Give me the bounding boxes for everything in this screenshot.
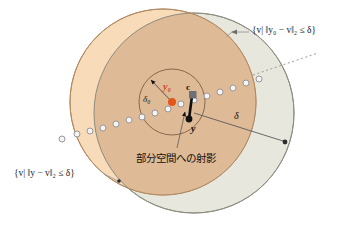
label-set-y: {v| ‖y − v‖₂ ≤ δ} — [14, 168, 75, 178]
label-projection-caption: 部分空間への射影 — [136, 150, 216, 165]
figure-canvas: {v| ‖y₀ − v‖₂ ≤ δ} {v| ‖y − v‖₂ ≤ δ} 部分空… — [0, 0, 358, 226]
point-y0-dot — [168, 98, 176, 106]
label-point-y: y — [191, 123, 195, 134]
radius-endpoint-dot — [283, 140, 288, 145]
label-radius-delta0: δ₀ — [143, 94, 150, 104]
label-point-y0: y₀ — [163, 81, 171, 92]
point-c-marker — [189, 91, 197, 99]
label-radius-delta: δ — [234, 110, 239, 121]
label-point-c: c — [186, 82, 190, 92]
point-y-dot — [186, 116, 193, 123]
label-set-y0: {v| ‖y₀ − v‖₂ ≤ δ} — [252, 25, 316, 35]
